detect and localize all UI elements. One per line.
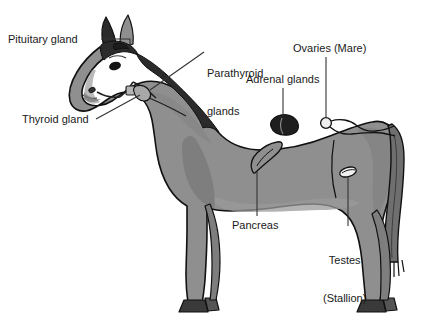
label-testes-stallion: Testes (Stallion)	[323, 229, 366, 323]
label-adrenal-glands: Adrenal glands	[246, 73, 319, 86]
leader-line-thyroid	[96, 95, 140, 119]
brow-ridge	[109, 56, 126, 58]
eye	[108, 60, 122, 71]
front-hoof-near	[179, 300, 208, 312]
label-parathyroid-glands: Parathyroid glands	[207, 42, 263, 142]
right-ear	[120, 15, 133, 45]
adrenal-marker	[271, 115, 299, 136]
ovary-marker	[321, 118, 332, 129]
label-parathyroid-glands-line2: glands	[207, 105, 263, 118]
endocrine-glands-figure: Pituitary gland Thyroid gland Parathyroi…	[0, 0, 440, 323]
label-thyroid-gland: Thyroid gland	[22, 113, 89, 126]
label-ovaries-mare: Ovaries (Mare)	[293, 42, 366, 55]
label-pituitary-gland: Pituitary gland	[8, 33, 78, 46]
label-testes-stallion-line1: Testes	[323, 254, 366, 267]
label-pancreas: Pancreas	[232, 219, 278, 232]
label-testes-stallion-line2: (Stallion)	[323, 292, 366, 305]
